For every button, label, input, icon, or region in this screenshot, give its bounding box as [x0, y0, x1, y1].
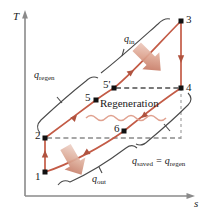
- regeneration-label: Regeneration: [100, 98, 159, 109]
- state-point-label-1: 1: [35, 171, 41, 182]
- arrowhead-3-to-4: [178, 55, 184, 63]
- state-point-marker-3: [179, 19, 184, 24]
- process-6-to-1-heat-rejection: [45, 131, 124, 172]
- q-out-label: qout: [92, 174, 106, 184]
- q-saved-label: qsaved = qregen: [132, 156, 185, 166]
- process-4-to-6-regenerator-cooling: [124, 88, 181, 131]
- state-point-label-5-prime: 5': [103, 79, 110, 90]
- q-in-subscript: in: [129, 38, 134, 46]
- axis-temperature-arrowhead: [22, 10, 28, 19]
- q-in-label: qin: [124, 34, 134, 44]
- state-point-marker-2: [43, 136, 48, 141]
- axis-label-entropy: s: [194, 198, 198, 209]
- state-point-marker-4: [179, 86, 184, 91]
- regeneration-wavy-heat-flow: [86, 116, 166, 121]
- ts-diagram-figure: T s 1 2 3 4 5 5' 6 Regeneration qin qout…: [0, 0, 212, 215]
- state-point-marker-1: [43, 170, 48, 175]
- state-point-marker-6: [122, 129, 127, 134]
- state-point-label-3: 3: [186, 14, 192, 25]
- axis-label-temperature: T: [13, 11, 19, 22]
- state-point-label-6: 6: [114, 123, 120, 134]
- process-2-to-5-regeneration-heating: [45, 100, 96, 138]
- q-saved-rhs-subscript: regen: [170, 160, 186, 168]
- state-point-marker-5: [94, 98, 99, 103]
- state-point-label-4: 4: [186, 82, 192, 93]
- q-regen-subscript: regen: [39, 74, 55, 82]
- q-regen-label: qregen: [34, 70, 55, 80]
- bracket-q-out-tick: [99, 167, 102, 173]
- q-out-block-arrow: [55, 141, 92, 181]
- arrowhead-1-to-2: [42, 150, 48, 158]
- state-point-marker-5prime: [112, 86, 117, 91]
- state-point-label-2: 2: [35, 130, 41, 141]
- q-out-subscript: out: [97, 178, 106, 186]
- q-saved-subscript: saved: [137, 160, 153, 168]
- bracket-q-regen-tick: [57, 97, 62, 103]
- q-saved-equals: =: [153, 155, 165, 166]
- q-saved-rhs-symbol: q: [165, 155, 170, 166]
- state-point-label-5: 5: [85, 92, 91, 103]
